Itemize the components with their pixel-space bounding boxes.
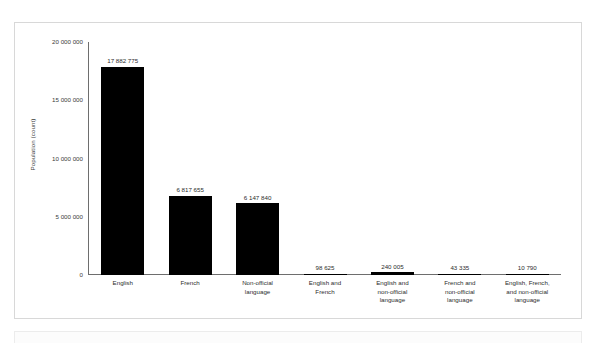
x-axis-category-label: English, French,and non-officiallanguage [494, 279, 561, 305]
bar-group[interactable]: 98 625 [304, 42, 347, 275]
category-label-line: language [426, 296, 493, 305]
category-label-line: French [156, 279, 223, 288]
bar[interactable] [438, 274, 481, 275]
chart-panel: Population (count) 05 000 00010 000 0001… [14, 22, 582, 319]
x-axis-category-label: Non-officiallanguage [224, 279, 291, 296]
bar-group[interactable]: 6 817 655 [169, 42, 212, 275]
category-label-line: language [494, 296, 561, 305]
bar-value-label: 43 335 [450, 264, 469, 271]
bar[interactable] [506, 274, 549, 275]
bar-value-label: 6 147 840 [244, 194, 272, 201]
category-label-line: non-official [426, 288, 493, 297]
bar-value-label: 240 005 [381, 263, 403, 270]
bar-group[interactable]: 17 882 775 [101, 42, 144, 275]
bar-value-label: 6 817 655 [176, 186, 204, 193]
y-axis-tick-label: 20 000 000 [21, 38, 83, 45]
bar[interactable] [101, 67, 144, 275]
x-axis-category-labels: EnglishFrenchNon-officiallanguageEnglish… [89, 279, 561, 319]
bar-value-label: 98 625 [316, 264, 335, 271]
x-axis-category-label: English andnon-officiallanguage [359, 279, 426, 305]
category-label-line: English and [291, 279, 358, 288]
x-axis-category-label: French [156, 279, 223, 288]
y-axis-tick-label: 15 000 000 [21, 96, 83, 103]
y-axis-tick-label: 0 [21, 271, 83, 278]
y-axis-tick-label: 10 000 000 [21, 155, 83, 162]
bar-value-label: 10 790 [518, 264, 537, 271]
category-label-line: Non-official [224, 279, 291, 288]
bar[interactable] [304, 274, 347, 275]
category-label-line: English [89, 279, 156, 288]
lower-panel [14, 331, 582, 343]
x-axis-category-label: English andFrench [291, 279, 358, 296]
x-axis-category-label: French andnon-officiallanguage [426, 279, 493, 305]
bar-group[interactable]: 240 005 [371, 42, 414, 275]
bar-group[interactable]: 10 790 [506, 42, 549, 275]
bar[interactable] [169, 196, 212, 275]
category-label-line: French [291, 288, 358, 297]
bar[interactable] [236, 203, 279, 275]
category-label-line: French and [426, 279, 493, 288]
bar[interactable] [371, 272, 414, 275]
category-label-line: non-official [359, 288, 426, 297]
x-axis-category-label: English [89, 279, 156, 288]
bars-layer: 17 882 7756 817 6556 147 84098 625240 00… [89, 42, 561, 275]
y-axis-tick-label: 5 000 000 [21, 213, 83, 220]
category-label-line: language [359, 296, 426, 305]
y-axis-tick-labels: 05 000 00010 000 00015 000 00020 000 000 [15, 23, 83, 283]
category-label-line: language [224, 288, 291, 297]
category-label-line: and non-official [494, 288, 561, 297]
category-label-line: English, French, [494, 279, 561, 288]
bar-group[interactable]: 6 147 840 [236, 42, 279, 275]
bar-chart: Population (count) 05 000 00010 000 0001… [15, 23, 581, 318]
bar-group[interactable]: 43 335 [438, 42, 481, 275]
bar-value-label: 17 882 775 [107, 57, 138, 64]
category-label-line: English and [359, 279, 426, 288]
